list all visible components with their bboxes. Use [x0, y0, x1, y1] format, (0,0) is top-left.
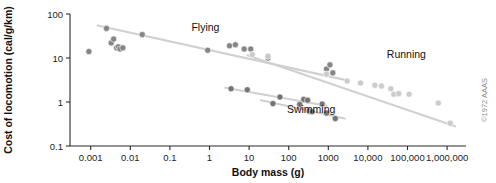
x-tick-label: 1000	[318, 152, 339, 163]
x-tick-label: 0.1	[163, 152, 176, 163]
x-tick-label: 1	[207, 152, 212, 163]
data-point	[226, 43, 232, 49]
data-point	[372, 82, 378, 88]
data-point	[330, 70, 336, 76]
data-point	[388, 86, 394, 92]
x-tick-label: 10,000	[353, 152, 382, 163]
trendlines-group	[98, 25, 456, 126]
cost-of-locomotion-figure: 0.11101000.0010.010.1110100100010,000100…	[0, 0, 496, 183]
y-tick-label: 10	[52, 53, 63, 64]
data-point	[205, 47, 211, 53]
copyright-credit: ©1972 AAAS	[480, 78, 489, 122]
data-point	[435, 100, 441, 106]
data-point	[249, 51, 255, 57]
data-point	[232, 42, 238, 48]
data-point	[86, 48, 92, 54]
y-tick-label: 1	[58, 97, 63, 108]
x-tick-label: 1,000,000	[426, 152, 468, 163]
trendline-running	[247, 55, 455, 126]
data-point	[327, 62, 333, 68]
data-point	[305, 97, 311, 103]
data-point	[244, 87, 250, 93]
data-point	[111, 36, 117, 42]
series-label-swimming: Swimming	[287, 103, 336, 115]
x-tick-label: 0.01	[121, 152, 140, 163]
series-label-running: Running	[387, 48, 426, 60]
y-tick-label: 0.1	[50, 141, 63, 152]
data-point	[103, 25, 109, 31]
x-tick-label: 0.001	[79, 152, 103, 163]
x-tick-label: 10	[244, 152, 255, 163]
data-point	[344, 78, 350, 84]
data-point	[357, 80, 363, 86]
copyright-label: ©1972 AAAS	[480, 78, 489, 122]
axes-group	[66, 14, 466, 150]
trendline-flying	[98, 25, 348, 80]
data-point	[265, 53, 271, 59]
data-point	[332, 115, 338, 121]
data-point	[378, 83, 384, 89]
data-point	[406, 91, 412, 97]
scatter-plot: 0.11101000.0010.010.1110100100010,000100…	[0, 0, 496, 183]
data-point	[120, 45, 126, 51]
y-tick-label: 100	[47, 9, 63, 20]
data-point	[396, 91, 402, 97]
data-point	[277, 94, 283, 100]
data-point	[228, 86, 234, 92]
data-point	[447, 120, 453, 126]
x-tick-label: 100	[281, 152, 297, 163]
data-points-group	[86, 25, 454, 126]
data-point	[139, 32, 145, 38]
data-point	[241, 46, 247, 52]
x-tick-label: 100,000	[390, 152, 424, 163]
y-axis-title: Cost of locomotion (cal/g/km)	[2, 6, 14, 154]
series-label-flying: Flying	[191, 21, 219, 33]
data-point	[323, 71, 329, 77]
x-axis-title: Body mass (g)	[232, 166, 304, 178]
data-point	[270, 100, 276, 106]
